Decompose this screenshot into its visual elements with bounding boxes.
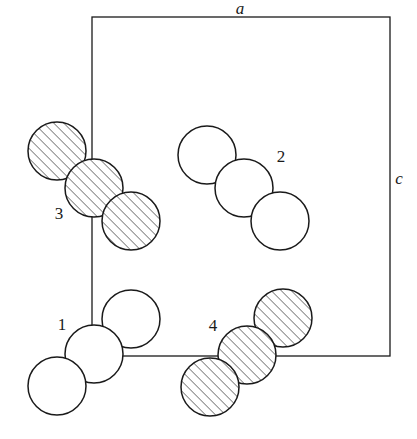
crystal-structure-figure: 1234 ac [0,0,417,439]
atom-circle-1-3 [28,357,86,415]
atom-circle-3-3 [102,192,160,250]
axis-labels-layer: ac [236,0,403,188]
axis-label-c: c [395,169,403,188]
group-label-1: 1 [58,315,67,334]
axis-label-a: a [236,0,245,18]
atom-circle-4-3 [181,358,239,416]
atoms-layer [28,122,312,416]
atom-circle-2-3 [251,192,309,250]
molecule-group-4 [181,289,312,416]
group-label-4: 4 [209,316,218,335]
molecule-group-3 [28,122,160,250]
group-label-3: 3 [55,204,64,223]
molecule-group-2 [178,126,309,250]
group-label-2: 2 [277,147,286,166]
molecule-group-1 [28,290,160,415]
structure-diagram-canvas: 1234 ac [0,0,417,439]
